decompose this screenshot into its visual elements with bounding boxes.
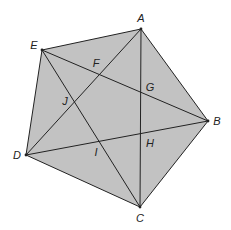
label-d: D	[13, 149, 21, 161]
label-h: H	[146, 137, 154, 149]
label-i: I	[94, 146, 97, 158]
vertex-dot-b	[207, 120, 210, 123]
label-j: J	[61, 95, 68, 107]
label-c: C	[136, 212, 144, 224]
label-e: E	[30, 39, 38, 51]
label-g: G	[146, 81, 155, 93]
label-b: B	[213, 115, 220, 127]
vertex-dot-c	[139, 206, 142, 209]
vertex-dot-d	[25, 154, 28, 157]
label-a: A	[136, 12, 144, 24]
vertex-dot-a	[140, 28, 143, 31]
vertex-dot-e	[41, 49, 44, 52]
pentagon-diagram: A B C D E F G H I J	[0, 0, 231, 230]
